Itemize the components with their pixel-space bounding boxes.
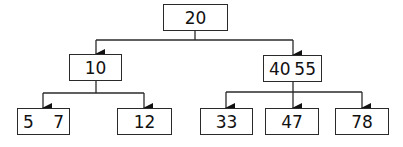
node-key: 40 (269, 59, 291, 79)
node-root: 20 (163, 4, 228, 31)
node-key: 20 (185, 8, 207, 28)
node-key: 5 (23, 112, 34, 132)
node-78: 78 (335, 108, 389, 135)
node-12: 12 (117, 108, 172, 135)
node-47: 47 (265, 108, 319, 135)
node-key: 10 (85, 58, 107, 78)
node-40-55: 40 55 (263, 55, 322, 82)
node-key: 33 (216, 112, 238, 132)
node-10: 10 (69, 54, 122, 81)
node-key: 55 (294, 59, 316, 79)
node-key: 78 (351, 112, 373, 132)
node-key: 47 (281, 112, 303, 132)
node-33: 33 (200, 108, 253, 135)
node-key: 12 (134, 112, 156, 132)
node-5-7: 5 7 (17, 108, 70, 135)
b-tree-diagram: 20 10 40 55 5 7 12 33 47 78 (0, 0, 403, 147)
node-key: 7 (53, 112, 64, 132)
